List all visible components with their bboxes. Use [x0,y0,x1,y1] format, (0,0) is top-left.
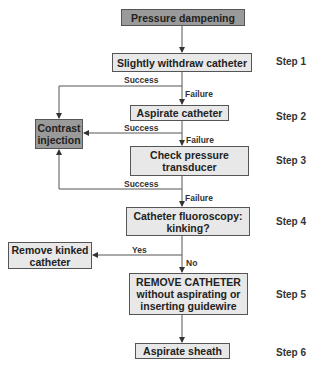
step-label-6: Step 6 [276,347,306,358]
edge-label-success: Success [124,179,159,189]
step-label-2: Step 2 [276,111,306,122]
node-label-line2: injection [37,134,80,146]
node-label-line1: REMOVE CATHETER [136,276,241,288]
step-label-5: Step 5 [276,289,306,300]
node-check-pressure: Check pressure transducer [130,146,249,176]
node-label-line2: without aspirating or [137,288,241,300]
edge-label-success: Success [124,123,159,133]
edge-label-failure: Failure [185,193,213,203]
step-label-3: Step 3 [276,155,306,166]
node-label: Slightly withdraw catheter [117,57,247,69]
start-label: Pressure dampening [131,12,235,24]
node-label-line1: Contrast [37,122,80,134]
node-label-line2: kinking? [166,222,209,234]
start-node-pressure-dampening: Pressure dampening [121,9,245,26]
node-contrast-injection: Contrast injection [35,119,83,149]
node-label-line1: Remove kinked [11,244,88,256]
node-remove-catheter: REMOVE CATHETER without aspirating or in… [129,273,248,315]
node-label-line2: catheter [30,256,71,268]
edge-label-yes: Yes [132,245,147,255]
edge-label-no: No [186,258,197,268]
node-label: Aspirate catheter [137,107,223,119]
node-label: Aspirate sheath [143,345,222,357]
node-remove-kinked: Remove kinked catheter [8,242,92,269]
node-aspirate-sheath: Aspirate sheath [135,343,230,359]
edge-label-failure: Failure [185,89,213,99]
step-label-4: Step 4 [276,216,306,227]
step-label-1: Step 1 [276,56,306,67]
edge-label-failure: Failure [186,135,214,145]
node-catheter-fluoroscopy: Catheter fluoroscopy: kinking? [126,207,250,236]
node-label-line1: Catheter fluoroscopy: [133,210,242,222]
node-slightly-withdraw: Slightly withdraw catheter [112,53,252,72]
node-label-line3: inserting guidewire [140,300,236,312]
node-label-line1: Check pressure [150,149,229,161]
node-aspirate-catheter: Aspirate catheter [130,105,229,121]
edge-label-success: Success [124,75,159,85]
node-label-line2: transducer [162,161,216,173]
